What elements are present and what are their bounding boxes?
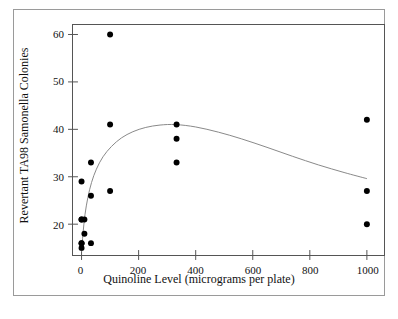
data-point	[88, 193, 94, 199]
data-point	[81, 216, 87, 222]
y-axis-title-container: Revertant TA98 Samonella Colonies	[16, 10, 34, 261]
y-tick-label: 60	[36, 28, 64, 39]
data-point	[107, 188, 113, 194]
y-tick-label: 50	[36, 76, 64, 87]
y-axis-title: Revertant TA98 Samonella Colonies	[18, 48, 33, 224]
data-point	[364, 188, 370, 194]
y-tick-label: 40	[36, 124, 64, 135]
data-point	[88, 240, 94, 246]
data-point	[364, 221, 370, 227]
plot-area	[72, 24, 385, 256]
data-point	[79, 240, 85, 246]
data-point	[79, 179, 85, 185]
data-point	[88, 160, 94, 166]
data-point	[364, 117, 370, 123]
data-points	[79, 32, 370, 251]
data-point	[174, 122, 180, 128]
chart-canvas	[73, 25, 384, 255]
data-point	[81, 231, 87, 237]
data-point	[174, 136, 180, 142]
fitted-curve	[82, 124, 367, 251]
axis-ticks	[68, 34, 367, 259]
data-point	[174, 160, 180, 166]
y-tick-label: 20	[36, 219, 64, 230]
figure-panel: Revertant TA98 Samonella Colonies 203040…	[13, 9, 385, 296]
data-point	[107, 32, 113, 38]
data-point	[107, 122, 113, 128]
y-tick-label: 30	[36, 172, 64, 183]
x-axis-title: Quinoline Level (micrograms per plate)	[14, 272, 384, 287]
